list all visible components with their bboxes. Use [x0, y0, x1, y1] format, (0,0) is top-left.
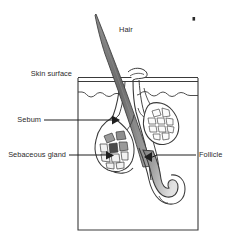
hair-follicle-figure: Hair Skin surface Sebum Sebaceous gland …: [0, 0, 235, 241]
label-follicle: Follicle: [199, 150, 222, 159]
leader-line-sebaceous-gland: [69, 151, 114, 160]
sebaceous-gland-left: [95, 115, 134, 172]
pore-opening-flap: [128, 68, 147, 80]
leader-line-follicle: [144, 152, 196, 162]
label-hair: Hair: [119, 25, 133, 34]
label-sebaceous-gland: Sebaceous gland: [8, 150, 66, 159]
wavy-epidermis-boundary: [78, 92, 198, 98]
hair-follicle-diagram: Hair Skin surface Sebum Sebaceous gland …: [0, 0, 235, 241]
stray-ink-speck: [193, 17, 196, 21]
label-sebum: Sebum: [17, 115, 41, 124]
label-skin-surface: Skin surface: [31, 69, 72, 78]
